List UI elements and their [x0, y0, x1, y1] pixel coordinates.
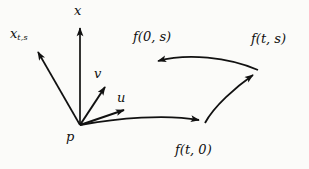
ft0-curve-label: f(t, 0) — [175, 143, 212, 156]
point-p-label: p — [66, 130, 74, 143]
xts-axis-arrow — [38, 52, 80, 125]
u-vector-label: u — [117, 91, 125, 104]
diagram-vector-graphics — [0, 0, 309, 169]
x-axis-label: x — [74, 4, 81, 17]
xts-axis-label-subscript: t,s — [17, 33, 28, 42]
f0s-curve-arrow — [158, 57, 258, 70]
fts-curve-label: f(t, s) — [251, 32, 286, 45]
v-vector-label: v — [94, 67, 101, 80]
fts-curve-arrow — [205, 75, 253, 123]
v-vector-arrow — [80, 87, 105, 125]
xts-axis-label: xt,s — [10, 27, 28, 42]
diagram-canvas: x xt,s v u p f(0, s) f(t, s) f(t, 0) — [0, 0, 309, 169]
f0s-curve-label: f(0, s) — [133, 30, 171, 43]
u-vector-arrow — [80, 110, 124, 125]
